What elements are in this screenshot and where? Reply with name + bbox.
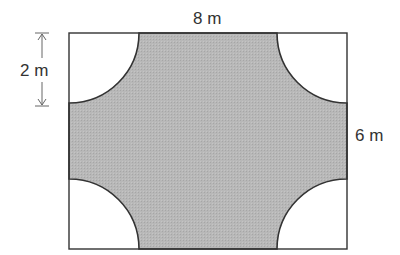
radius-label: 2 m <box>20 61 48 80</box>
width-label: 8 m <box>193 9 221 28</box>
diagram: 8 m 2 m 6 m <box>0 0 400 255</box>
height-label: 6 m <box>355 126 383 145</box>
shaded-region <box>69 33 347 249</box>
geometry-figure: 8 m 2 m 6 m <box>0 0 400 255</box>
